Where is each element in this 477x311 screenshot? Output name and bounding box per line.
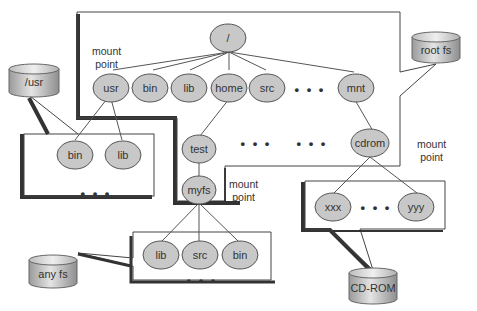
node-usr (93, 74, 129, 102)
node-lib (171, 74, 207, 102)
node-bin (132, 74, 168, 102)
node-myfs-src (182, 241, 218, 269)
node-myfs-lib (143, 241, 179, 269)
node-yyy (398, 193, 434, 221)
node-xxx (315, 193, 351, 221)
root-fs-box-outline (77, 12, 436, 200)
node-usr-lib (105, 141, 141, 169)
node-cdrom (351, 129, 389, 157)
node-myfs-bin (222, 241, 258, 269)
node-root (210, 24, 246, 52)
disk-any-fs (29, 255, 77, 288)
diagram-canvas (0, 0, 477, 311)
disk-cdrom (349, 268, 397, 304)
node-test (182, 135, 216, 163)
disk-usr (9, 64, 59, 97)
node-usr-bin (57, 141, 93, 169)
node-mnt (338, 74, 374, 102)
usr-callout-thick (29, 98, 48, 134)
root-fs-box (77, 12, 436, 203)
node-home (211, 74, 247, 102)
node-src (249, 74, 285, 102)
node-myfs (182, 176, 216, 204)
disk-root-fs (412, 32, 460, 63)
